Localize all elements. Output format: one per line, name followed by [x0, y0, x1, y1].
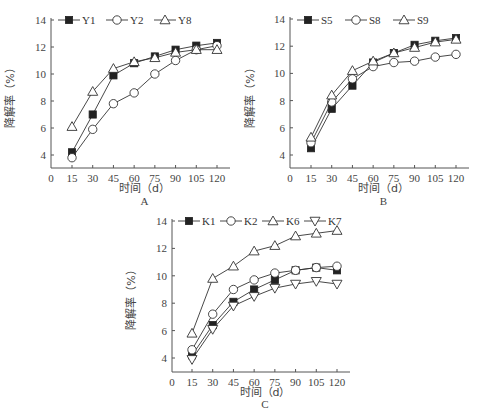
legend-label: K2	[244, 215, 257, 227]
legend-marker-icon	[227, 217, 235, 225]
data-point-marker	[250, 276, 258, 284]
legend-item-y8: Y8	[154, 14, 192, 26]
x-tick-label: 0	[287, 172, 293, 184]
data-point-marker	[151, 70, 159, 78]
x-tick-label: 90	[409, 172, 421, 184]
x-tick-label: 30	[87, 172, 99, 184]
x-tick-label: 105	[188, 172, 205, 184]
x-tick-label: 90	[170, 172, 182, 184]
legend-item-y2: Y2	[106, 14, 143, 26]
data-point-marker	[312, 263, 320, 271]
legend-marker-icon	[352, 16, 360, 24]
legend-marker-icon	[310, 217, 320, 226]
legend-item-k6: K6	[262, 215, 300, 227]
data-point-marker	[390, 58, 398, 66]
legend-marker-icon	[185, 217, 192, 224]
legend-item-s9: S9	[393, 14, 429, 26]
y-tick-label: 14	[156, 215, 168, 227]
legend-label: S9	[417, 14, 429, 26]
y-tick-label: 12	[35, 41, 46, 53]
data-point-marker	[249, 293, 259, 302]
x-tick-label: 120	[209, 172, 226, 184]
x-tick-label: 120	[329, 376, 346, 388]
y-tick-label: 8	[162, 297, 168, 309]
legend-label: Y1	[82, 14, 95, 26]
data-point-marker	[270, 241, 280, 250]
x-tick-label: 15	[306, 172, 318, 184]
series-y1	[68, 39, 220, 156]
series-s9	[306, 34, 461, 141]
data-point-marker	[188, 346, 196, 354]
data-point-marker	[209, 310, 217, 318]
data-point-marker	[431, 53, 439, 61]
legend-label: S8	[369, 14, 381, 26]
series-line	[72, 43, 217, 152]
legend-item-s5: S5	[297, 14, 333, 26]
data-point-marker	[291, 266, 299, 274]
chart-panel-b: 4681012140153045607590105120时间（d）降解率（%）B…	[243, 13, 469, 207]
x-tick-label: 15	[187, 376, 199, 388]
y-tick-label: 6	[280, 122, 286, 134]
legend-label: Y2	[130, 14, 143, 26]
y-tick-label: 4	[162, 352, 168, 364]
data-point-marker	[452, 50, 460, 58]
data-point-marker	[171, 56, 179, 64]
series-line	[72, 46, 217, 158]
y-axis-title: 降解率（%）	[243, 62, 257, 127]
series-line	[192, 281, 337, 359]
y-tick-label: 10	[35, 68, 47, 80]
y-tick-label: 10	[274, 67, 286, 79]
y-tick-label: 8	[280, 95, 286, 107]
legend-item-k7: K7	[304, 215, 342, 227]
data-point-marker	[348, 75, 356, 83]
x-tick-label: 30	[326, 172, 338, 184]
panel-label: C	[261, 398, 268, 410]
x-tick-label: 105	[308, 376, 325, 388]
data-point-marker	[228, 261, 238, 270]
legend-label: Y8	[178, 14, 192, 26]
y-tick-label: 12	[274, 40, 285, 52]
x-tick-label: 30	[207, 376, 219, 388]
figure: 4681012140153045607590105120时间（d）降解率（%）A…	[0, 0, 480, 420]
panel-label: B	[380, 195, 387, 207]
data-point-marker	[89, 111, 96, 118]
y-axis-title: 降解率（%）	[124, 264, 138, 329]
chart-panel-c: 4681012140153045607590105120时间（d）降解率（%）C…	[124, 215, 350, 410]
x-tick-label: 105	[427, 172, 444, 184]
data-point-marker	[187, 328, 197, 337]
data-point-marker	[270, 284, 280, 293]
y-tick-label: 4	[41, 149, 47, 161]
legend: S5S8S9	[297, 14, 429, 26]
legend: K1K2K6K7	[178, 215, 342, 227]
data-point-marker	[68, 154, 76, 162]
legend: Y1Y2Y8	[58, 14, 192, 26]
legend-label: K1	[202, 215, 215, 227]
data-point-marker	[67, 122, 77, 131]
legend-label: K6	[286, 215, 300, 227]
x-tick-label: 45	[108, 172, 120, 184]
data-point-marker	[333, 262, 341, 270]
x-axis-title: 时间（d）	[358, 182, 409, 195]
data-point-marker	[410, 57, 418, 65]
y-tick-label: 12	[156, 242, 167, 254]
legend-marker-icon	[160, 15, 170, 24]
legend-item-k1: K1	[178, 215, 215, 227]
legend-item-k2: K2	[220, 215, 257, 227]
legend-item-s8: S8	[345, 14, 381, 26]
data-point-marker	[110, 72, 117, 79]
x-tick-label: 0	[48, 172, 54, 184]
y-tick-label: 6	[41, 122, 47, 134]
panel-label: A	[141, 195, 149, 207]
y-tick-label: 10	[156, 270, 168, 282]
data-point-marker	[208, 274, 218, 283]
x-axis-title: 时间（d）	[119, 182, 170, 195]
data-point-marker	[271, 269, 279, 277]
legend-marker-icon	[268, 216, 278, 225]
x-tick-label: 120	[448, 172, 465, 184]
legend-item-y1: Y1	[58, 14, 95, 26]
y-axis-title: 降解率（%）	[3, 62, 17, 127]
x-tick-label: 15	[67, 172, 79, 184]
legend-marker-icon	[304, 16, 311, 23]
data-point-marker	[229, 285, 237, 293]
data-point-marker	[251, 286, 258, 293]
